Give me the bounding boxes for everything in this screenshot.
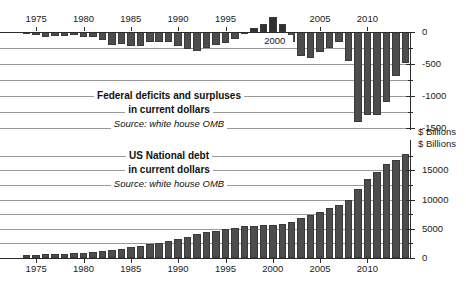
bar-2006 [326,32,334,48]
y-tick-label: 15000 [422,165,448,174]
bar-2000 [269,17,277,32]
bar-1994 [212,231,220,258]
bar-2009 [354,189,362,259]
bar-2004 [307,32,315,58]
x-axis-label-2000: 2000 [257,264,289,274]
bar-2001 [279,224,287,258]
y-tick [408,214,413,215]
bar-2000 [269,225,277,258]
y-tick [406,32,415,33]
y-tick-label: 5000 [422,224,443,233]
bar-1985 [127,247,135,258]
bar-2012 [383,164,391,258]
x-axis-label-2010: 2010 [351,264,383,274]
bar-1982 [99,32,107,40]
bar-1999 [260,225,268,258]
y-tick-label: -500 [422,59,441,68]
x-axis-label-1995: 1995 [210,264,242,274]
bar-1992 [193,234,201,258]
y-tick-label: -1000 [422,91,446,100]
x-axis-label-2010: 2010 [351,14,383,24]
bar-2004 [307,215,315,258]
chart-figure: 1975198019851990199520052010 0-500-1000-… [0,0,466,281]
bar-1986 [137,32,145,46]
y-tick [408,48,413,49]
bar-1989 [165,241,173,258]
bar-1982 [99,251,107,258]
bar-1984 [118,32,126,44]
x-tick [226,27,227,31]
x-axis-label-2005: 2005 [304,14,336,24]
debt-chart-units-label: $ Billions [418,138,456,149]
bar-1987 [146,32,154,42]
y-tick [408,156,413,157]
x-tick [36,27,37,31]
bar-1983 [108,250,116,258]
gridline [0,80,410,81]
bar-1989 [165,32,173,42]
bar-1996 [231,228,239,259]
bar-2010 [364,179,372,258]
y-tick-label: 0 [422,27,427,36]
y-tick [408,185,413,186]
bar-2009 [354,32,362,122]
deficit-chart-annotation: Federal deficits and surpluses in curren… [62,88,276,130]
x-tick [84,27,85,31]
debt-chart-annotation: US National debt in current dollars Sour… [62,148,276,190]
inline-year-marker-2000: 2000 [257,35,293,46]
bar-1990 [174,32,182,46]
bar-1987 [146,244,154,258]
debt-annotation-line2: in current dollars [125,164,213,176]
y-tick [406,258,415,259]
x-axis-baseline [0,258,414,259]
y-tick [406,170,415,171]
x-axis-label-1985: 1985 [115,264,147,274]
bar-1990 [174,239,182,258]
bar-2013 [392,32,400,76]
y-tick [406,200,415,201]
x-axis-label-1990: 1990 [162,264,194,274]
bar-2003 [297,32,305,56]
bar-2003 [297,218,305,258]
debt-annotation-source: Source: white house OMB [111,178,227,190]
bar-2011 [373,32,381,115]
y-tick-label: 10000 [422,195,448,204]
bar-2010 [364,32,372,115]
bar-1992 [193,32,201,51]
bar-2013 [392,160,400,258]
bar-1985 [127,32,135,46]
x-axis-label-1985: 1985 [115,14,147,24]
bar-1997 [241,226,249,258]
x-tick [320,27,321,31]
bar-1986 [137,246,145,258]
zero-baseline [0,32,414,33]
bar-1984 [118,249,126,258]
bar-1988 [155,32,163,42]
bar-2008 [345,200,353,259]
y-tick [406,128,415,129]
gridline [0,64,410,65]
x-tick [178,27,179,31]
bar-2005 [316,32,324,52]
bar-2002 [288,222,296,258]
y-tick-label: 0 [422,253,427,262]
y-tick [406,64,415,65]
bar-1991 [184,32,192,49]
bar-1996 [231,32,239,39]
x-tick [131,27,132,31]
bar-1993 [203,32,211,48]
bar-2007 [335,205,343,258]
deficit-annotation-line1: Federal deficits and surpluses [94,90,244,102]
bar-1995 [222,32,230,43]
x-axis-label-1980: 1980 [68,14,100,24]
bar-1983 [108,32,116,45]
x-axis-label-2005: 2005 [304,264,336,274]
y-axis-spine [410,32,411,130]
bar-2006 [326,208,334,258]
bar-2008 [345,32,353,61]
bar-2005 [316,212,324,258]
x-axis-label-1980: 1980 [68,264,100,274]
deficit-annotation-line2: in current dollars [125,104,213,116]
bar-1999 [260,24,268,32]
y-tick [408,112,413,113]
